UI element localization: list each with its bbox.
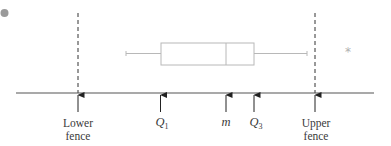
bullet-icon (1, 9, 9, 17)
q1-subscript: 1 (165, 122, 169, 131)
q1-label: Q1 (155, 116, 168, 133)
lower-fence-label-line2: fence (63, 130, 93, 143)
upper-fence-label: Upper fence (302, 117, 331, 143)
lower-fence-label-line1: Lower (63, 117, 93, 130)
q3-letter: Q (249, 115, 258, 129)
outlier-marker: * (345, 46, 351, 59)
upper-fence-label-line1: Upper (302, 117, 331, 130)
interquartile-box (161, 43, 254, 65)
q1-letter: Q (155, 115, 164, 129)
lower-fence-label: Lower fence (63, 117, 93, 143)
median-label: m (221, 116, 230, 129)
median-letter: m (221, 115, 230, 129)
box-plot-diagram (0, 0, 391, 146)
q3-subscript: 3 (259, 122, 263, 131)
upper-fence-label-line2: fence (302, 130, 331, 143)
q3-label: Q3 (249, 116, 262, 133)
